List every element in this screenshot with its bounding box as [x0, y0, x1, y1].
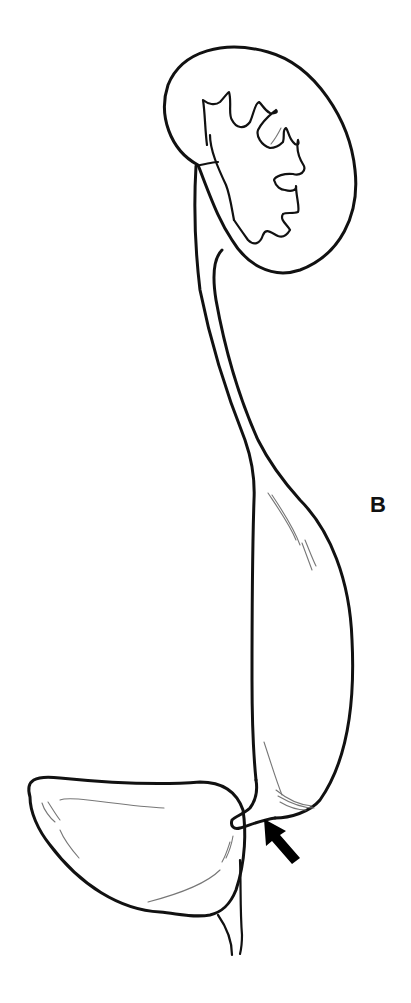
bladder — [29, 777, 245, 916]
urethra — [218, 860, 242, 955]
anatomy-illustration: B — [0, 0, 411, 1003]
ureter — [195, 166, 353, 818]
renal-calyces — [203, 92, 304, 243]
arrow-icon — [264, 819, 300, 864]
panel-label: B — [370, 494, 386, 516]
